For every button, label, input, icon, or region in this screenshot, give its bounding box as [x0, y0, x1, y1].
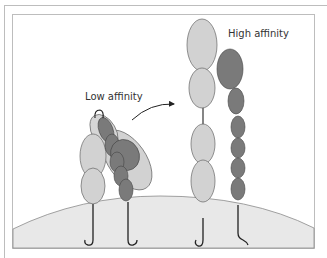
high-affinity-label: High affinity [228, 28, 289, 39]
integrin-affinity-diagram: Low affinity High affinity [0, 0, 327, 258]
dark-subunit-domain [228, 88, 244, 114]
dark-subunit-domain [119, 179, 133, 201]
light-subunit-domain [187, 19, 217, 71]
dark-subunit-domain [231, 116, 245, 138]
light-subunit-domain [81, 168, 105, 204]
dark-subunit-domain [231, 158, 245, 178]
light-subunit-domain [191, 160, 215, 202]
light-subunit-domain [189, 68, 215, 108]
dark-subunit-domain [217, 49, 243, 89]
dark-subunit-domain [231, 138, 245, 158]
low-affinity-label: Low affinity [85, 91, 143, 102]
light-subunit-domain [191, 124, 215, 164]
dark-subunit-domain [231, 178, 245, 200]
